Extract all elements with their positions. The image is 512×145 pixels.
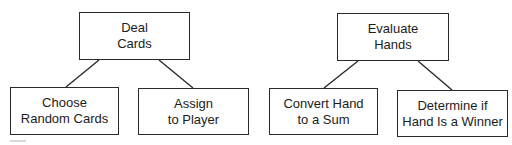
node-choose-random-cards: Choose Random Cards [10, 87, 119, 135]
cropped-caption-fragment [10, 140, 26, 142]
node-label-line: Evaluate [368, 21, 419, 37]
node-convert-hand-to-sum: Convert Hand to a Sum [269, 88, 378, 135]
edge-evaluate-to-convert [324, 61, 358, 88]
node-label-line: Hands [374, 37, 412, 53]
node-label-line: Deal [121, 20, 148, 36]
node-determine-if-winner: Determine if Hand Is a Winner [397, 90, 508, 137]
node-assign-to-player: Assign to Player [138, 88, 249, 135]
node-label-line: Choose [42, 95, 87, 111]
edge-deal-to-choose [66, 60, 99, 87]
node-label-line: to Player [168, 112, 219, 128]
node-deal-cards: Deal Cards [79, 12, 190, 60]
edge-evaluate-to-determine [418, 61, 452, 90]
edge-deal-to-assign [159, 60, 193, 88]
node-label-line: Cards [117, 36, 152, 52]
node-label-line: Convert Hand [283, 96, 363, 112]
node-label-line: Hand Is a Winner [402, 114, 502, 130]
node-evaluate-hands: Evaluate Hands [337, 13, 449, 61]
node-label-line: Random Cards [21, 111, 108, 127]
node-label-line: to a Sum [297, 112, 349, 128]
node-label-line: Determine if [417, 98, 487, 114]
node-label-line: Assign [174, 96, 213, 112]
